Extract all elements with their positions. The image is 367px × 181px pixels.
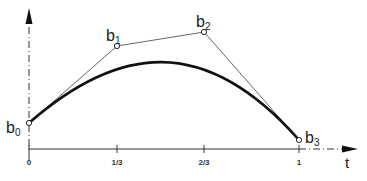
tick-label-1-3: 1/3 — [111, 158, 123, 167]
control-polygon — [29, 32, 299, 140]
control-point-b0 — [26, 120, 31, 125]
axis-label-t: t — [345, 154, 350, 171]
tick-label-1: 1 — [297, 158, 302, 167]
label-b1: b1 — [106, 27, 121, 46]
control-point-b3 — [296, 137, 301, 142]
label-b3: b3 — [305, 129, 320, 148]
label-b2: b2 — [196, 13, 211, 32]
bezier-curve — [29, 62, 299, 140]
tick-label-2-3: 2/3 — [198, 158, 210, 167]
label-b0: b0 — [6, 119, 21, 138]
tick-label-0: 0 — [27, 158, 32, 167]
horizontal-axis-arrow-icon — [342, 146, 358, 153]
bezier-diagram: 0 1/3 2/3 1 t b0 b1 b2 b3 — [0, 0, 367, 181]
vertical-axis-arrow-icon — [26, 8, 33, 24]
